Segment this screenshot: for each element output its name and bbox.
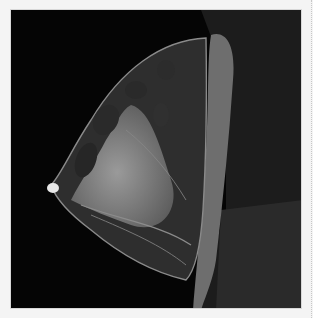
mri-image <box>10 9 302 309</box>
divider-line <box>311 0 312 318</box>
mri-scan-graphic <box>11 10 302 309</box>
